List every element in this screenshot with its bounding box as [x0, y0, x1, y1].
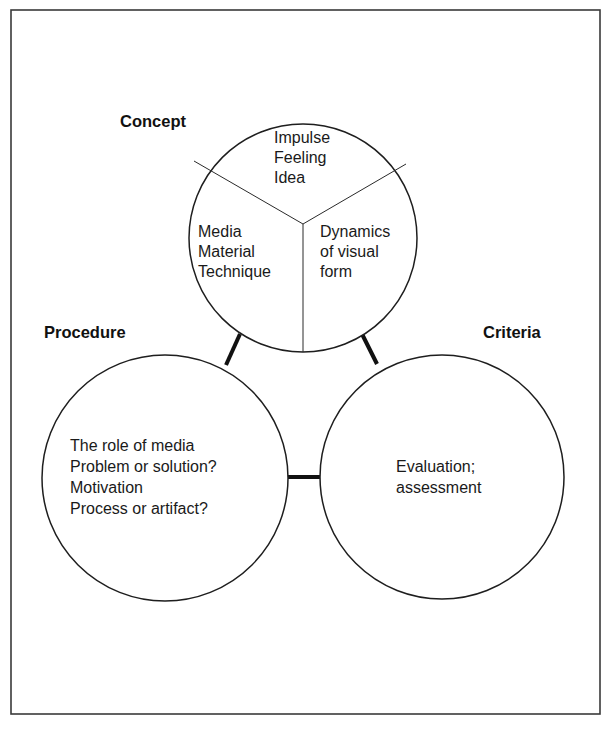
concept-segment-left-line: Media: [198, 223, 242, 240]
concept-segment-left-line: Material: [198, 243, 255, 260]
criteria-circle: [320, 355, 564, 599]
criteria-line: assessment: [396, 479, 482, 496]
concept-segment-right-line: of visual: [320, 243, 379, 260]
concept-segment-top-line: Impulse: [274, 129, 330, 146]
concept-segment-top-line: Feeling: [274, 149, 326, 166]
criteria-label: Criteria: [483, 323, 542, 341]
criteria-line: Evaluation;: [396, 458, 475, 475]
concept-node: Concept Impulse Feeling Idea Media Mater…: [120, 112, 417, 352]
procedure-label: Procedure: [44, 323, 126, 341]
procedure-line: Motivation: [70, 479, 143, 496]
connector-concept-procedure: [226, 334, 240, 365]
procedure-line: Process or artifact?: [70, 500, 208, 517]
procedure-line: Problem or solution?: [70, 458, 217, 475]
concept-segment-right-line: Dynamics: [320, 223, 390, 240]
concept-segment-right-line: form: [320, 263, 352, 280]
diagram-frame: [11, 10, 600, 714]
concept-label: Concept: [120, 112, 187, 130]
criteria-node: Criteria Evaluation; assessment: [320, 323, 564, 599]
procedure-line: The role of media: [70, 437, 195, 454]
connector-concept-criteria: [362, 334, 377, 364]
procedure-circle: [42, 355, 288, 601]
procedure-node: Procedure The role of media Problem or s…: [42, 323, 288, 601]
concept-procedure-criteria-diagram: Concept Impulse Feeling Idea Media Mater…: [0, 0, 612, 730]
concept-segment-top-line: Idea: [274, 169, 305, 186]
concept-segment-left-line: Technique: [198, 263, 271, 280]
